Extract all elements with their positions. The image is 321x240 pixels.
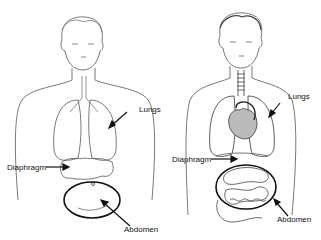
head-outline (61, 17, 103, 70)
heart-shape (229, 109, 257, 139)
right-diaphragm-label: Diaphragm (172, 155, 211, 164)
right-abdomen-label: Abdomen (277, 215, 311, 224)
anatomy-diagram (0, 0, 321, 240)
left-abdomen-label: Abdomen (124, 225, 158, 234)
diaphragm-shape (60, 158, 113, 179)
right-shoulder (95, 68, 155, 200)
left-shoulder (15, 68, 72, 200)
left-diaphragm-label: Diaphragm (7, 163, 46, 172)
right-shoulder (252, 66, 296, 215)
right-lungs-label: Lungs (288, 92, 310, 101)
right-lung (89, 100, 117, 160)
left-figure (15, 17, 154, 226)
right-figure (186, 13, 296, 222)
left-lungs-label: Lungs (139, 105, 161, 114)
head-outline (219, 13, 262, 68)
abdomen-circle-left (64, 182, 120, 218)
abdomen-circle-right (216, 165, 276, 209)
left-shoulder (186, 66, 230, 215)
left-lung (54, 100, 81, 160)
